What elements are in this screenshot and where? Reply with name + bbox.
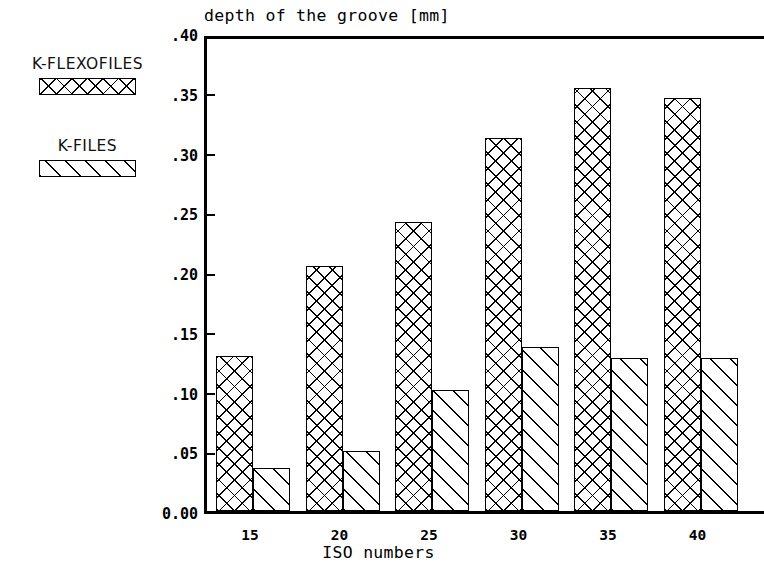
y-tick-label-.05: .05 [150, 445, 198, 463]
y-tick-label-0.00: 0.00 [150, 505, 198, 523]
bar-k-flexofiles-iso-40 [664, 98, 701, 511]
bar-k-files-iso-30 [522, 347, 559, 511]
bar-k-flexofiles-iso-15 [216, 356, 253, 511]
x-tick-label-20: 20 [331, 527, 348, 543]
bar-k-flexofiles-iso-25 [395, 222, 432, 511]
y-tick-.35 [204, 94, 215, 96]
y-tick-.10 [204, 393, 215, 395]
y-tick-label-.25: .25 [150, 206, 198, 224]
chart-title: depth of the groove [mm] [204, 6, 450, 25]
legend-swatch-diagonal-hatch-icon [39, 160, 136, 177]
x-tick-label-40: 40 [689, 527, 706, 543]
y-axis-labels: 0.00.05.10.15.20.25.30.35.40 [140, 0, 198, 565]
bar-k-flexofiles-iso-20 [306, 266, 343, 511]
bar-k-files-iso-20 [343, 451, 380, 511]
bar-k-flexofiles-iso-30 [485, 138, 522, 511]
y-tick-.15 [204, 333, 215, 335]
x-tick-label-15: 15 [241, 527, 258, 543]
bars-layer [207, 39, 764, 511]
bar-k-flexofiles-iso-35 [574, 88, 611, 511]
y-tick-label-.15: .15 [150, 326, 198, 344]
x-tick-label-30: 30 [510, 527, 527, 543]
y-tick-.25 [204, 214, 215, 216]
x-axis-title: ISO numbers [0, 543, 757, 562]
x-tick-label-35: 35 [599, 527, 616, 543]
y-tick-.05 [204, 453, 215, 455]
x-tick-label-25: 25 [420, 527, 437, 543]
y-tick-label-.30: .30 [150, 147, 198, 165]
bar-k-files-iso-40 [701, 358, 738, 511]
legend-swatch-cross-hatch-icon [39, 78, 136, 95]
y-tick-label-.10: .10 [150, 386, 198, 404]
y-tick-label-.40: .40 [150, 27, 198, 45]
bar-k-files-iso-35 [611, 358, 648, 511]
plot-area [204, 36, 764, 514]
y-tick-.20 [204, 274, 215, 276]
y-tick-label-.20: .20 [150, 266, 198, 284]
bar-k-files-iso-15 [253, 468, 290, 511]
y-tick-label-.35: .35 [150, 87, 198, 105]
bar-k-files-iso-25 [432, 390, 469, 511]
y-tick-.30 [204, 154, 215, 156]
